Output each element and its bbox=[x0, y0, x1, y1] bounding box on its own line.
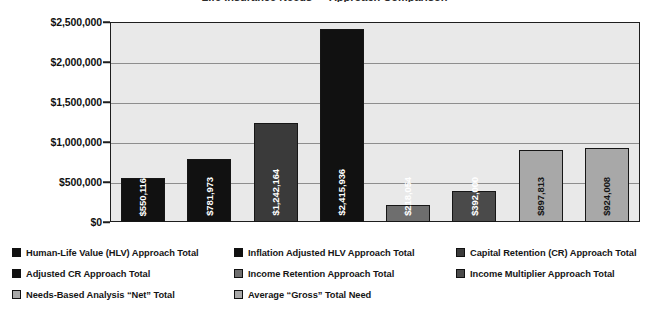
bar-chart-figure: Life Insurance Needs — Approach Comparis… bbox=[0, 0, 649, 318]
y-axis-tick-mark bbox=[103, 221, 110, 223]
bars-layer: $550,116$781,973$1,242,164$2,415,936$218… bbox=[110, 22, 640, 222]
legend-color-swatch bbox=[234, 248, 243, 257]
y-axis-tick-label: $2,000,000 bbox=[2, 56, 102, 68]
legend-label: Income Multiplier Approach Total bbox=[470, 269, 615, 279]
legend-item[interactable]: Inflation Adjusted HLV Approach Total bbox=[234, 245, 415, 260]
legend-color-swatch bbox=[12, 248, 21, 257]
bar-value-label: $550,116 bbox=[138, 178, 148, 216]
legend-item[interactable]: Adjusted CR Approach Total bbox=[12, 266, 150, 281]
legend-item[interactable]: Income Multiplier Approach Total bbox=[456, 266, 615, 281]
y-axis-tick-label: $1,500,000 bbox=[2, 96, 102, 108]
legend-label: Needs-Based Analysis “Net” Total bbox=[26, 290, 175, 300]
y-axis-tick-label: $1,000,000 bbox=[2, 136, 102, 148]
bar[interactable]: $392,000 bbox=[452, 191, 496, 222]
y-axis-tick-label: $500,000 bbox=[2, 176, 102, 188]
bar[interactable]: $781,973 bbox=[187, 159, 231, 222]
legend-color-swatch bbox=[234, 269, 243, 278]
y-axis-tick-mark bbox=[103, 21, 110, 23]
bar[interactable]: $897,813 bbox=[519, 150, 563, 222]
y-axis-tick-label: $2,500,000 bbox=[2, 16, 102, 28]
y-axis-tick-mark bbox=[103, 141, 110, 143]
y-axis-tick-mark bbox=[103, 181, 110, 183]
legend-item[interactable]: Average “Gross” Total Need bbox=[234, 287, 371, 302]
bar[interactable]: $924,008 bbox=[585, 148, 629, 222]
legend-item[interactable]: Human-Life Value (HLV) Approach Total bbox=[12, 245, 199, 260]
bar-value-label: $1,242,164 bbox=[271, 169, 281, 216]
legend-color-swatch bbox=[234, 290, 243, 299]
y-axis-tick-mark bbox=[103, 101, 110, 103]
legend-color-swatch bbox=[12, 290, 21, 299]
legend-label: Capital Retention (CR) Approach Total bbox=[470, 248, 637, 258]
legend-item[interactable]: Capital Retention (CR) Approach Total bbox=[456, 245, 637, 260]
bar[interactable]: $218,054 bbox=[386, 205, 430, 222]
bar-value-label: $897,813 bbox=[536, 177, 546, 216]
legend-label: Adjusted CR Approach Total bbox=[26, 269, 150, 279]
bar[interactable]: $550,116 bbox=[121, 178, 165, 222]
legend-color-swatch bbox=[12, 269, 21, 278]
bar-value-label: $781,973 bbox=[205, 177, 215, 216]
bar-value-label: $392,000 bbox=[470, 177, 480, 216]
legend-label: Income Retention Approach Total bbox=[248, 269, 394, 279]
bar-value-label: $218,054 bbox=[403, 177, 413, 216]
chart-legend: Human-Life Value (HLV) Approach TotalAdj… bbox=[12, 245, 642, 310]
legend-color-swatch bbox=[456, 269, 465, 278]
bar[interactable]: $2,415,936 bbox=[320, 29, 364, 222]
legend-label: Average “Gross” Total Need bbox=[248, 290, 371, 300]
legend-item[interactable]: Needs-Based Analysis “Net” Total bbox=[12, 287, 175, 302]
legend-label: Inflation Adjusted HLV Approach Total bbox=[248, 248, 415, 258]
legend-color-swatch bbox=[456, 248, 465, 257]
bar[interactable]: $1,242,164 bbox=[254, 123, 298, 222]
y-axis-tick-mark bbox=[103, 61, 110, 63]
bar-value-label: $2,415,936 bbox=[337, 169, 347, 216]
legend-item[interactable]: Income Retention Approach Total bbox=[234, 266, 394, 281]
legend-label: Human-Life Value (HLV) Approach Total bbox=[26, 248, 199, 258]
bar-value-label: $924,008 bbox=[602, 177, 612, 216]
plot-wrapper: $0$500,000$1,000,000$1,500,000$2,000,000… bbox=[0, 0, 649, 238]
y-axis-tick-label: $0 bbox=[2, 216, 102, 228]
